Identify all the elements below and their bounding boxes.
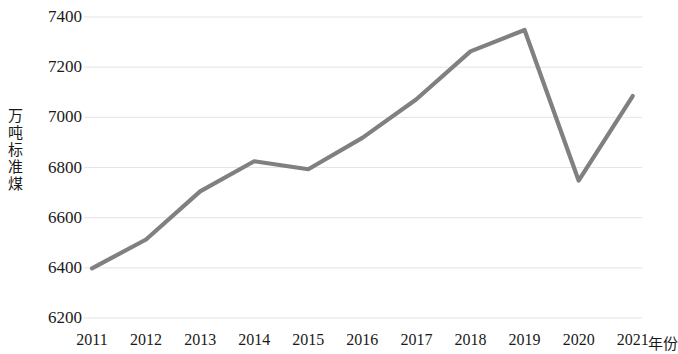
line-chart: 万吨标准煤 6200640066006800700072007400 20112…: [0, 0, 678, 354]
x-axis-title: 年份: [648, 332, 678, 353]
x-axis-tick-label: 2013: [184, 331, 216, 349]
x-axis-tick-label: 2020: [563, 331, 595, 349]
x-axis-tick-labels: 2011201220132014201520162017201820192020…: [0, 0, 678, 354]
x-axis-tick-label: 2012: [130, 331, 162, 349]
x-axis-tick-label: 2016: [346, 331, 378, 349]
x-axis-tick-label: 2018: [454, 331, 486, 349]
x-axis-tick-label: 2017: [400, 331, 432, 349]
x-axis-tick-label: 2019: [509, 331, 541, 349]
x-axis-tick-label: 2021: [617, 331, 649, 349]
x-axis-tick-label: 2014: [238, 331, 270, 349]
x-axis-tick-label: 2015: [292, 331, 324, 349]
x-axis-tick-label: 2011: [76, 331, 107, 349]
